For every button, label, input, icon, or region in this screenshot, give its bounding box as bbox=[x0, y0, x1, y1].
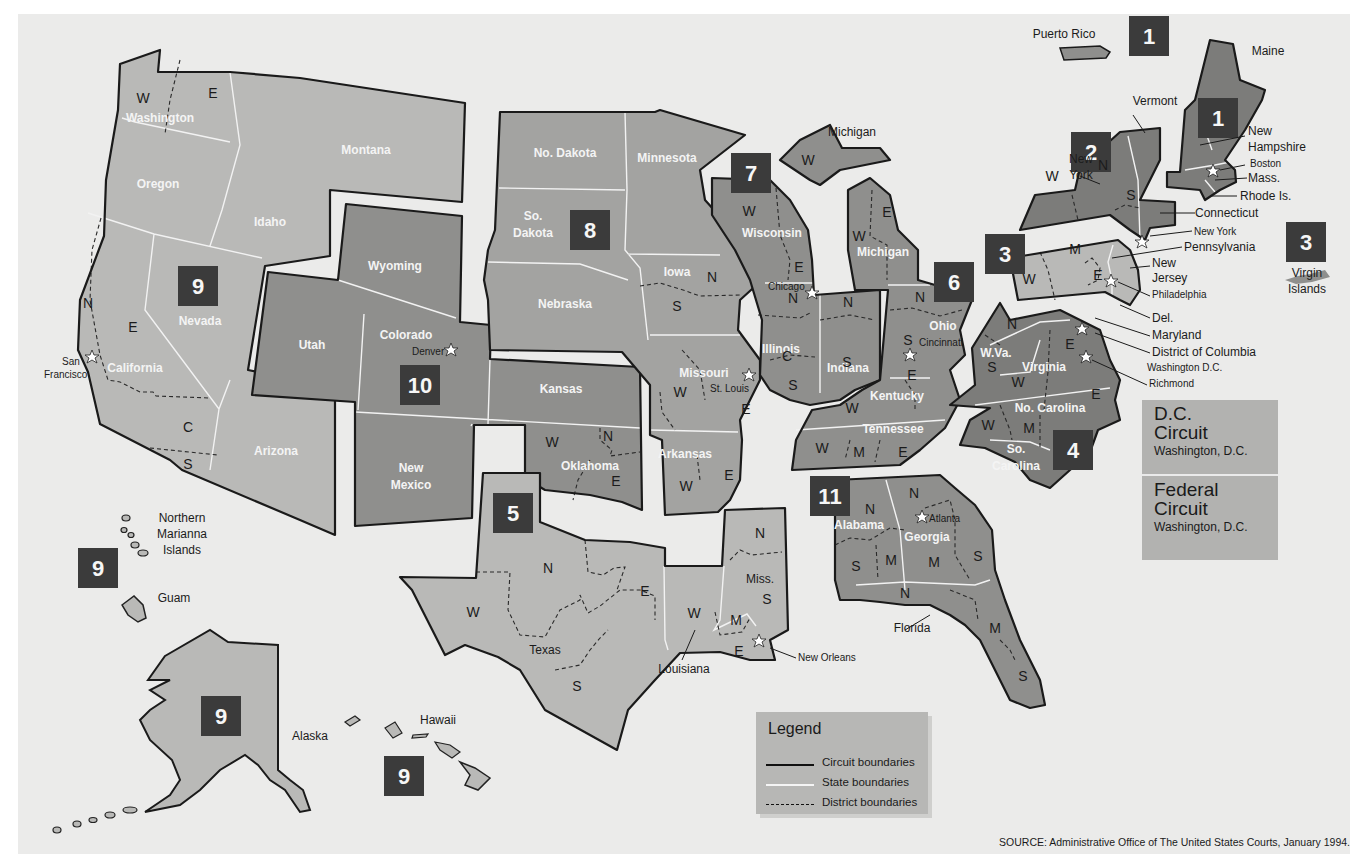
svg-text:S: S bbox=[762, 591, 771, 607]
svg-text:W: W bbox=[1011, 374, 1025, 390]
federal-circuit-location: Washington, D.C. bbox=[1154, 520, 1278, 534]
svg-text:S: S bbox=[987, 359, 996, 375]
svg-text:N: N bbox=[755, 525, 765, 541]
federal-circuit-title-2: Circuit bbox=[1154, 499, 1278, 518]
state-label: No. Carolina bbox=[1015, 401, 1086, 415]
svg-text:6: 6 bbox=[948, 270, 960, 295]
svg-text:W: W bbox=[545, 434, 559, 450]
svg-text:S: S bbox=[672, 298, 681, 314]
svg-text:W: W bbox=[815, 440, 829, 456]
state-label: Georgia bbox=[904, 530, 950, 544]
svg-text:9: 9 bbox=[215, 704, 227, 729]
svg-text:Jersey: Jersey bbox=[1152, 271, 1187, 285]
state-label: Montana bbox=[341, 143, 391, 157]
state-label: Kansas bbox=[540, 382, 583, 396]
state-label: Kentucky bbox=[870, 389, 924, 403]
svg-text:N: N bbox=[865, 501, 875, 517]
svg-text:Louisiana: Louisiana bbox=[658, 662, 710, 676]
state-label: Arkansas bbox=[658, 447, 712, 461]
legend-item-circuit: Circuit boundaries bbox=[766, 756, 926, 776]
state-label: New bbox=[399, 461, 424, 475]
svg-text:7: 7 bbox=[745, 161, 757, 186]
circuit-badge-3-vi: 3 bbox=[1286, 222, 1326, 262]
svg-text:N: N bbox=[843, 294, 853, 310]
svg-text:9: 9 bbox=[192, 274, 204, 299]
svg-text:W: W bbox=[981, 417, 995, 433]
dashed-line-icon bbox=[766, 804, 814, 805]
svg-text:E: E bbox=[898, 444, 907, 460]
circuit-badge-9-alaska: 9 bbox=[201, 696, 241, 736]
state-label: Michigan bbox=[857, 245, 909, 259]
circuit-badge-1-maine: 1 bbox=[1198, 98, 1238, 138]
svg-text:3: 3 bbox=[1300, 230, 1312, 255]
svg-text:Maine: Maine bbox=[1252, 44, 1285, 58]
dc-circuit-panel: D.C. Circuit Washington, D.C. bbox=[1142, 400, 1278, 474]
svg-text:N: N bbox=[915, 289, 925, 305]
state-label: Oregon bbox=[137, 177, 180, 191]
state-label: Idaho bbox=[254, 215, 286, 229]
svg-text:N: N bbox=[900, 585, 910, 601]
circuit-badge-9-hawaii: 9 bbox=[384, 756, 424, 796]
svg-text:E: E bbox=[734, 643, 743, 659]
svg-text:Florida: Florida bbox=[894, 621, 931, 635]
svg-text:W: W bbox=[1045, 168, 1059, 184]
svg-text:9: 9 bbox=[398, 764, 410, 789]
svg-text:E: E bbox=[1065, 336, 1074, 352]
svg-text:Islands: Islands bbox=[1288, 282, 1326, 296]
svg-text:Connecticut: Connecticut bbox=[1195, 206, 1259, 220]
svg-text:W: W bbox=[742, 203, 756, 219]
svg-text:S: S bbox=[572, 678, 581, 694]
svg-text:E: E bbox=[724, 467, 733, 483]
svg-text:Maryland: Maryland bbox=[1152, 328, 1201, 342]
svg-text:Michigan: Michigan bbox=[828, 125, 876, 139]
svg-text:S: S bbox=[183, 456, 192, 472]
svg-text:10: 10 bbox=[408, 373, 432, 398]
circuit-badge-8: 8 bbox=[570, 210, 610, 250]
svg-text:11: 11 bbox=[818, 484, 841, 509]
circuit-badge-9-guam: 9 bbox=[78, 548, 118, 588]
pacific-islands bbox=[53, 515, 490, 833]
svg-text:W: W bbox=[845, 400, 859, 416]
svg-text:W: W bbox=[466, 604, 480, 620]
svg-text:Mass.: Mass. bbox=[1248, 171, 1280, 185]
legend: Legend Circuit boundaries State boundari… bbox=[756, 712, 928, 814]
svg-text:Vermont: Vermont bbox=[1133, 94, 1178, 108]
svg-text:N: N bbox=[909, 485, 919, 501]
svg-text:N: N bbox=[707, 269, 717, 285]
svg-text:E: E bbox=[907, 367, 916, 383]
solid-line-icon bbox=[766, 764, 814, 766]
svg-text:M: M bbox=[853, 444, 865, 460]
legend-title: Legend bbox=[768, 720, 821, 738]
state-label: Oklahoma bbox=[561, 459, 619, 473]
circuit-badge-1-pr: 1 bbox=[1129, 16, 1169, 56]
state-label: Nebraska bbox=[538, 297, 592, 311]
svg-text:8: 8 bbox=[584, 218, 596, 243]
state-label: Arizona bbox=[254, 444, 298, 458]
source-caption: SOURCE: Administrative Office of The Uni… bbox=[999, 836, 1350, 848]
state-label: Carolina bbox=[992, 459, 1040, 473]
svg-text:N: N bbox=[1007, 316, 1017, 332]
state-label: Wyoming bbox=[368, 259, 422, 273]
svg-text:S: S bbox=[788, 377, 797, 393]
svg-text:Texas: Texas bbox=[529, 643, 560, 657]
state-label: Alabama bbox=[834, 518, 884, 532]
svg-text:E: E bbox=[208, 85, 217, 101]
state-label: Ohio bbox=[929, 319, 956, 333]
svg-text:District of Columbia: District of Columbia bbox=[1152, 345, 1256, 359]
svg-text:Francisco: Francisco bbox=[44, 369, 88, 380]
state-label: Dakota bbox=[513, 226, 553, 240]
svg-text:Hampshire: Hampshire bbox=[1248, 140, 1306, 154]
circuit-badge-7: 7 bbox=[731, 153, 771, 193]
svg-text:N: N bbox=[1098, 157, 1108, 173]
svg-text:New: New bbox=[1248, 124, 1272, 138]
svg-text:E: E bbox=[1093, 267, 1102, 283]
svg-text:W: W bbox=[852, 228, 866, 244]
svg-text:5: 5 bbox=[507, 501, 519, 526]
svg-text:Pennsylvania: Pennsylvania bbox=[1184, 240, 1256, 254]
svg-text:S: S bbox=[903, 332, 912, 348]
svg-text:E: E bbox=[1091, 386, 1100, 402]
svg-text:W: W bbox=[801, 152, 815, 168]
state-label: W.Va. bbox=[980, 346, 1011, 360]
svg-text:N: N bbox=[83, 295, 93, 311]
svg-text:M: M bbox=[885, 552, 897, 568]
